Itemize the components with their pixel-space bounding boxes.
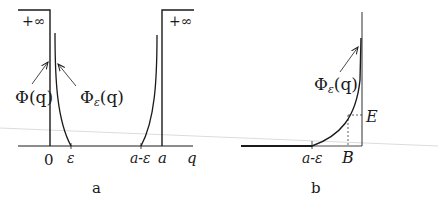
potential-label: Φ(q) <box>15 87 53 107</box>
potential-figure: +∞ +∞ Φ(q) Φε(q) 0 ε a-ε a q a <box>0 0 438 198</box>
smoothed-potential-left <box>55 33 71 146</box>
tick-label-a-minus-eps-b: a-ε <box>302 150 323 166</box>
left-infinite-wall <box>18 10 50 146</box>
left-infinity-label: +∞ <box>22 13 45 29</box>
caption-b: b <box>311 179 321 197</box>
tick-label-zero: 0 <box>44 151 54 169</box>
right-infinite-wall <box>162 10 194 146</box>
tick-label-a-minus-eps: a-ε <box>130 150 151 166</box>
smoothed-potential-label-b: Φε(q) <box>314 74 358 96</box>
panel-b: Φε(q) E a-ε B b <box>241 12 378 197</box>
smoothed-potential-label: Φε(q) <box>80 87 124 109</box>
arrow-to-potential <box>32 62 48 84</box>
right-infinity-label: +∞ <box>169 13 192 29</box>
tick-label-B: B <box>341 148 354 167</box>
level-E-label: E <box>365 107 378 126</box>
tick-label-epsilon: ε <box>67 150 75 166</box>
arrow-to-smoothed-potential <box>58 64 76 86</box>
scan-artifact-line <box>0 128 438 146</box>
caption-a: a <box>92 179 101 197</box>
tick-label-a: a <box>158 149 167 167</box>
panel-a: +∞ +∞ Φ(q) Φε(q) 0 ε a-ε a q a <box>15 10 197 197</box>
smoothed-potential-right <box>141 35 157 146</box>
axis-label-q: q <box>187 149 197 167</box>
arrow-to-smoothed-potential-b <box>340 47 358 72</box>
